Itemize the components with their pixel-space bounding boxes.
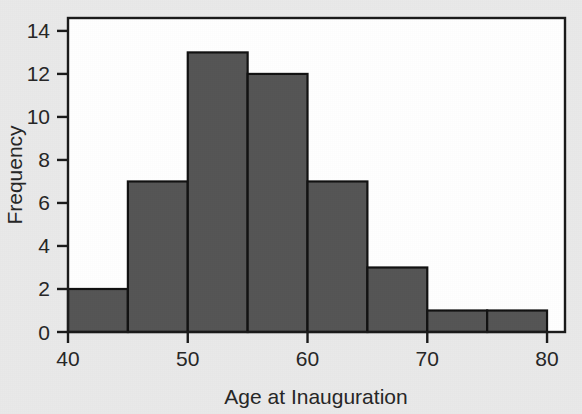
histogram-bar	[68, 289, 128, 332]
x-axis-title: Age at Inauguration	[224, 385, 407, 408]
histogram-bar	[487, 310, 547, 332]
y-axis-tick-label: 2	[38, 277, 50, 300]
y-axis-tick-label: 10	[27, 105, 50, 128]
x-axis-tick-label: 80	[535, 347, 558, 370]
x-axis-tick-label: 40	[56, 347, 79, 370]
y-axis-tick-label: 4	[38, 234, 50, 257]
histogram-bar	[427, 310, 487, 332]
histogram-bar	[128, 181, 188, 332]
histogram-figure: 02468101214 4050607080 Age at Inaugurati…	[0, 0, 582, 414]
y-axis-title: Frequency	[3, 125, 26, 225]
x-axis-tick-label: 70	[416, 347, 439, 370]
y-axis-tick-label: 8	[38, 148, 50, 171]
y-axis-tick-label: 12	[27, 62, 50, 85]
histogram-bar	[367, 267, 427, 332]
histogram-chart: 02468101214 4050607080 Age at Inaugurati…	[0, 0, 582, 414]
y-axis-tick-label: 0	[38, 321, 50, 344]
histogram-bar	[308, 181, 368, 332]
histogram-bar	[188, 52, 248, 332]
y-axis-tick-label: 6	[38, 191, 50, 214]
x-axis-tick-label: 50	[176, 347, 199, 370]
x-axis-tick-label: 60	[296, 347, 319, 370]
y-axis-tick-label: 14	[27, 19, 51, 42]
histogram-bar	[248, 74, 308, 332]
